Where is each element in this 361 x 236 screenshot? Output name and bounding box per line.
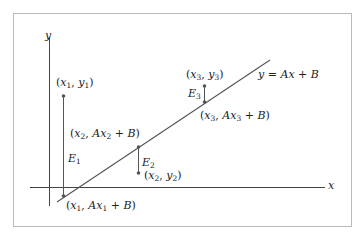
error-label-e2: E2	[142, 157, 155, 170]
line-point-3	[203, 100, 207, 104]
line-point-2-label: (x2, Ax2 + B)	[70, 128, 140, 141]
data-point-1-label: (x1, y1)	[56, 77, 94, 90]
y-axis-label: y	[45, 30, 51, 41]
data-point-2	[137, 171, 141, 175]
error-label-e3: E3	[188, 88, 201, 101]
line-point-1	[62, 194, 66, 198]
line-point-2	[137, 145, 141, 149]
line-equation-label: y = Ax + B	[258, 69, 319, 80]
line-point-1-label: (x1, Ax1 + B)	[66, 200, 136, 213]
data-point-3-label: (x3, y3)	[186, 69, 224, 82]
x-axis-label: x	[328, 180, 334, 191]
error-label-e1: E1	[68, 153, 81, 166]
diagram-canvas	[0, 0, 361, 236]
line-point-3-label: (x3, Ax3 + B)	[200, 110, 270, 123]
data-point-2-label: (x2, y2)	[144, 170, 182, 183]
data-point-3	[203, 84, 207, 88]
data-point-1	[62, 94, 66, 98]
